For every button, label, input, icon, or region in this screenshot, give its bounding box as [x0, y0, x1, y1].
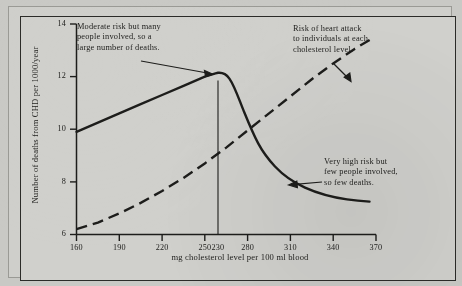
x-axis-title: mg cholesterol level per 100 ml blood: [140, 252, 340, 262]
x-tick-label-250: 250: [193, 243, 217, 252]
x-tick-label-370: 370: [364, 243, 388, 252]
y-axis-title: Number of deaths from CHD per 1000/year: [30, 20, 40, 230]
x-tick-label-340: 340: [321, 243, 345, 252]
x-tick-label-310: 310: [278, 243, 302, 252]
x-tick-label-160: 160: [65, 243, 89, 252]
x-tick-label-190: 190: [107, 243, 131, 252]
annotation-very-high-risk: Very high risk but few people involved, …: [324, 157, 398, 188]
annotation-individual-risk: Risk of heart attack to individuals at e…: [293, 24, 368, 55]
y-tick-label-6: 6: [52, 229, 66, 238]
series-individual-risk-dashed: [77, 38, 373, 229]
arrow-line-moderate-risk: [141, 61, 210, 74]
x-tick-label-220: 220: [150, 243, 174, 252]
annotation-moderate-risk: Moderate risk but many people involved, …: [77, 22, 161, 53]
y-tick-marks: [70, 24, 77, 235]
y-tick-label-8: 8: [52, 177, 66, 186]
x-tick-label-280: 280: [236, 243, 260, 252]
arrow-head-individual-risk: [344, 73, 351, 81]
figure-scan: 14 12 10 8 6 160 190 220 230 250 280 310…: [0, 0, 462, 286]
y-tick-label-12: 12: [52, 71, 66, 80]
x-tick-marks: [77, 235, 377, 242]
annotation-arrows: [141, 61, 351, 188]
y-tick-label-10: 10: [52, 124, 66, 133]
y-tick-label-14: 14: [52, 19, 66, 28]
axes: [70, 24, 376, 241]
